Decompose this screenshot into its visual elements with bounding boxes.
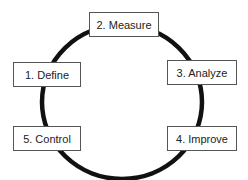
step-define: 1. Define xyxy=(13,62,81,87)
step-control: 5. Control xyxy=(13,126,81,151)
step-measure: 2. Measure xyxy=(89,12,159,37)
step-analyze: 3. Analyze xyxy=(167,60,237,85)
dmaic-cycle-diagram: 2. Measure 1. Define 3. Analyze 5. Contr… xyxy=(0,0,248,180)
step-improve: 4. Improve xyxy=(167,126,237,151)
